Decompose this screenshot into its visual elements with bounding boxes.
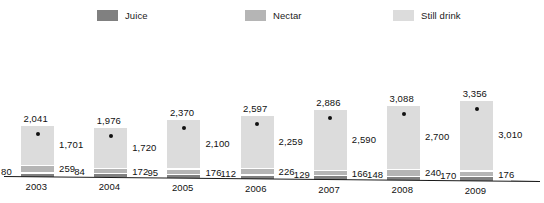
x-tick-label-2003: 2003 <box>26 181 48 192</box>
marker-dot-2003 <box>36 132 40 136</box>
total-label-2004: 1,976 <box>97 115 121 126</box>
value-label-nectar-2004: 172 <box>132 166 148 177</box>
value-label-still-drink-2009: 3,010 <box>498 129 522 140</box>
value-label-juice-2006: 112 <box>221 168 236 179</box>
bar-2009[interactable] <box>460 101 493 181</box>
segment-juice-2003[interactable] <box>21 174 54 177</box>
segment-juice-2008[interactable] <box>387 177 420 180</box>
marker-dot-2006 <box>255 122 259 126</box>
value-label-still-drink-2008: 2,700 <box>425 131 449 142</box>
segment-still-drink-2009[interactable] <box>460 101 493 171</box>
segment-juice-2009[interactable] <box>460 177 493 181</box>
value-label-juice-2009: 170 <box>440 170 456 181</box>
value-label-nectar-2007: 166 <box>352 168 368 179</box>
marker-dot-2009 <box>475 107 479 111</box>
total-label-2007: 2,886 <box>316 97 340 108</box>
total-label-2005: 2,370 <box>170 107 194 118</box>
segment-nectar-2006[interactable] <box>241 169 274 174</box>
marker-dot-2005 <box>182 126 186 130</box>
value-label-juice-2007: 129 <box>294 169 310 180</box>
segment-juice-2006[interactable] <box>241 176 274 179</box>
segment-juice-2007[interactable] <box>314 176 347 179</box>
value-label-juice-2005: 95 <box>147 167 158 178</box>
x-tick-label-2007: 2007 <box>318 184 340 195</box>
total-label-2008: 3,088 <box>390 93 414 104</box>
segment-nectar-2003[interactable] <box>21 166 54 172</box>
value-label-juice-2003: 80 <box>1 166 12 177</box>
x-tick-label-2005: 2005 <box>172 182 194 193</box>
value-label-still-drink-2007: 2,590 <box>352 134 376 145</box>
total-label-2003: 2,041 <box>24 113 48 124</box>
x-tick-label-2004: 2004 <box>99 181 121 192</box>
total-label-2009: 3,356 <box>463 88 487 99</box>
stacked-bar-chart: Juice Nectar Still drink 2,0411,70125980… <box>0 0 544 203</box>
x-tick-label-2008: 2008 <box>392 184 414 195</box>
value-label-still-drink-2006: 2,259 <box>279 136 303 147</box>
marker-dot-2008 <box>402 112 406 116</box>
value-label-juice-2008: 148 <box>367 169 383 180</box>
value-label-still-drink-2005: 2,100 <box>205 138 229 149</box>
value-label-still-drink-2003: 1,701 <box>59 139 83 150</box>
plot-area: 2,0411,7012598020031,9761,7201728420042,… <box>0 0 544 203</box>
segment-nectar-2009[interactable] <box>460 172 493 176</box>
marker-dot-2004 <box>109 134 113 138</box>
value-label-nectar-2005: 176 <box>205 167 221 178</box>
value-label-nectar-2003: 259 <box>59 163 75 174</box>
value-label-juice-2004: 84 <box>74 166 85 177</box>
x-tick-label-2006: 2006 <box>245 183 267 194</box>
segment-nectar-2008[interactable] <box>387 170 420 176</box>
segment-nectar-2007[interactable] <box>314 171 347 175</box>
total-label-2006: 2,597 <box>243 103 267 114</box>
segment-juice-2004[interactable] <box>94 174 127 177</box>
bar-2007[interactable] <box>314 110 347 180</box>
bar-2008[interactable] <box>387 106 420 180</box>
segment-juice-2005[interactable] <box>167 175 200 178</box>
segment-nectar-2004[interactable] <box>94 169 127 173</box>
segment-nectar-2005[interactable] <box>167 170 200 174</box>
value-label-still-drink-2004: 1,720 <box>132 142 156 153</box>
value-label-nectar-2009: 176 <box>498 169 514 180</box>
value-label-nectar-2006: 226 <box>279 166 295 177</box>
x-tick-label-2009: 2009 <box>465 185 487 196</box>
value-label-nectar-2008: 240 <box>425 167 441 178</box>
